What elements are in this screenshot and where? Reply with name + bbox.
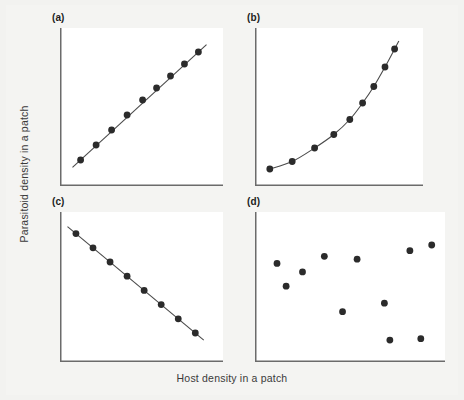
panel-d: (d) xyxy=(247,196,427,368)
data-point xyxy=(141,287,148,294)
panel-b-axes xyxy=(256,28,423,185)
data-point xyxy=(90,244,97,251)
data-point xyxy=(382,64,389,71)
data-point xyxy=(428,242,435,249)
panel-b: (b) xyxy=(247,12,427,192)
data-point xyxy=(346,116,353,123)
panel-b-plot-area xyxy=(255,28,423,186)
panel-c-plot-area xyxy=(60,212,223,362)
data-point xyxy=(73,230,80,237)
data-point xyxy=(321,253,328,260)
data-point xyxy=(181,61,188,68)
data-point xyxy=(93,142,100,149)
data-point xyxy=(274,260,281,267)
data-point xyxy=(381,300,388,307)
data-point xyxy=(311,145,318,152)
panel-a: (a) xyxy=(52,12,227,192)
data-point xyxy=(167,73,174,80)
data-point xyxy=(289,158,296,165)
panel-b-trend-line xyxy=(270,41,399,169)
data-point xyxy=(386,337,393,344)
panel-b-label: (b) xyxy=(247,12,260,23)
panel-a-svg xyxy=(60,28,223,186)
data-point xyxy=(158,301,165,308)
data-point xyxy=(153,85,160,92)
data-point xyxy=(330,131,337,138)
data-point xyxy=(354,256,361,263)
panel-b-svg xyxy=(255,28,423,186)
data-point xyxy=(339,308,346,315)
panel-c-svg xyxy=(60,212,223,362)
panel-a-plot-area xyxy=(60,28,223,186)
data-point xyxy=(359,100,366,107)
data-point xyxy=(77,157,84,164)
data-point xyxy=(195,49,202,56)
panel-c-axes xyxy=(61,212,223,361)
figure-root: Parasitoid density in a patch Host densi… xyxy=(0,0,464,400)
panel-c-label: (c) xyxy=(52,196,65,207)
panel-d-label: (d) xyxy=(247,196,260,207)
panel-d-plot-area xyxy=(255,212,445,362)
panel-a-label: (a) xyxy=(52,12,65,23)
data-point xyxy=(192,330,199,337)
data-point xyxy=(124,112,131,119)
y-axis-label: Parasitoid density in a patch xyxy=(18,74,30,274)
data-point xyxy=(139,97,146,104)
data-point xyxy=(266,166,273,173)
panel-c: (c) xyxy=(52,196,227,368)
data-point xyxy=(107,259,114,266)
data-point xyxy=(391,46,398,53)
x-axis-label: Host density in a patch xyxy=(0,372,464,384)
data-point xyxy=(370,83,377,90)
panel-c-trend-line xyxy=(68,227,204,340)
data-point xyxy=(417,335,424,342)
data-point xyxy=(299,269,306,276)
data-point xyxy=(406,247,413,254)
data-point xyxy=(283,283,290,290)
data-point xyxy=(108,127,115,134)
data-point xyxy=(124,273,131,280)
data-point xyxy=(175,315,182,322)
panel-d-svg xyxy=(255,212,445,362)
